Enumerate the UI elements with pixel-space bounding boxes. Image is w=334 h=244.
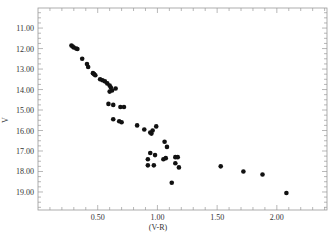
y-tick-label: 11.00 bbox=[16, 24, 34, 33]
data-point bbox=[284, 191, 289, 196]
data-point bbox=[111, 103, 116, 108]
data-point bbox=[177, 165, 182, 170]
x-axis-label: (V-R) bbox=[149, 223, 168, 232]
data-point bbox=[80, 57, 85, 62]
data-point bbox=[107, 89, 112, 94]
data-point bbox=[149, 131, 154, 136]
x-tick-label: 2.00 bbox=[270, 213, 284, 222]
data-point bbox=[142, 127, 147, 132]
data-point bbox=[260, 172, 265, 177]
y-tick-label: 18.00 bbox=[16, 167, 34, 176]
data-point bbox=[218, 164, 223, 169]
scatter-chart: 11.0012.0013.0014.0015.0016.0017.0018.00… bbox=[0, 0, 334, 244]
y-tick-label: 15.00 bbox=[16, 106, 34, 115]
data-point bbox=[146, 157, 151, 162]
data-point bbox=[152, 163, 157, 168]
data-point bbox=[154, 124, 159, 129]
y-tick-label: 12.00 bbox=[16, 45, 34, 54]
y-tick-label: 16.00 bbox=[16, 127, 34, 136]
x-axis-tick-labels: 0.501.001.502.00 bbox=[91, 213, 284, 222]
data-point bbox=[86, 65, 91, 70]
data-point bbox=[119, 120, 124, 125]
x-tick-label: 1.50 bbox=[210, 213, 224, 222]
y-tick-label: 19.00 bbox=[16, 188, 34, 197]
y-tick-label: 17.00 bbox=[16, 147, 34, 156]
y-tick-label: 14.00 bbox=[16, 86, 34, 95]
data-point bbox=[148, 151, 153, 156]
data-point bbox=[169, 180, 174, 185]
y-tick-label: 13.00 bbox=[16, 65, 34, 74]
data-point bbox=[122, 105, 127, 110]
data-point bbox=[75, 47, 80, 52]
data-point bbox=[106, 102, 111, 107]
data-point bbox=[146, 163, 151, 168]
y-axis-label: V bbox=[1, 117, 10, 123]
x-tick-label: 0.50 bbox=[91, 213, 105, 222]
plot-frame bbox=[38, 8, 327, 210]
y-axis-tick-labels: 11.0012.0013.0014.0015.0016.0017.0018.00… bbox=[16, 24, 34, 197]
x-tick-label: 1.00 bbox=[150, 213, 164, 222]
data-point bbox=[175, 155, 180, 160]
data-point bbox=[173, 161, 178, 166]
data-point bbox=[153, 153, 158, 158]
data-point bbox=[161, 157, 166, 162]
data-point bbox=[93, 73, 98, 78]
data-point bbox=[162, 139, 167, 144]
data-point bbox=[241, 169, 246, 174]
data-point bbox=[165, 145, 170, 150]
data-point bbox=[113, 86, 118, 91]
data-point bbox=[111, 117, 116, 122]
data-point bbox=[135, 123, 140, 128]
